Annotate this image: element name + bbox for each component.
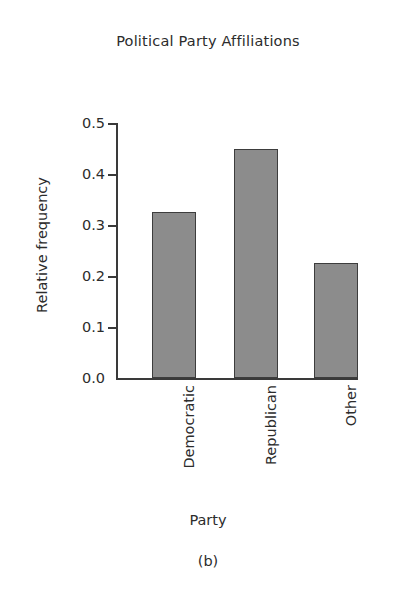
y-axis-tick-mark [108,174,116,176]
y-axis-tick-label: 0.1 [82,319,105,335]
x-axis-category-label: Democratic [181,385,197,469]
y-axis-tick-label: 0.4 [82,166,105,182]
y-axis-tick-label: 0.2 [82,268,105,284]
y-axis-tick-mark [108,327,116,329]
bar [234,149,278,379]
y-axis-tick-mark [108,225,116,227]
x-axis-line [116,378,358,380]
y-axis-title: Relative frequency [34,177,50,313]
plot-area: 0.00.10.20.30.40.5 [116,123,358,378]
y-axis-tick-label: 0.5 [82,115,105,131]
chart-title: Political Party Affiliations [0,33,416,49]
figure-panel: Political Party Affiliations 0.00.10.20.… [0,0,416,602]
x-axis-title: Party [0,512,416,528]
x-axis-category-label: Republican [263,385,279,465]
x-axis-category-label: Other [343,385,359,426]
y-axis-tick-mark [108,276,116,278]
y-axis-tick-mark [108,123,116,125]
bar [152,212,196,378]
bar [314,263,358,378]
y-axis-tick-label: 0.0 [82,370,105,386]
y-axis-tick-label: 0.3 [82,217,105,233]
panel-caption: (b) [0,553,416,569]
y-axis-line [116,123,118,378]
